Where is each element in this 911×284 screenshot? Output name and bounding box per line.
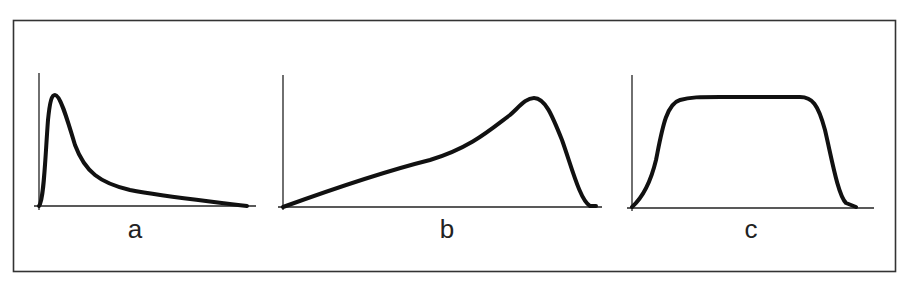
figure-canvas: a b c <box>0 0 911 284</box>
panel-a-curve <box>39 95 247 206</box>
panel-a: a <box>34 73 256 244</box>
panel-b-curve <box>283 98 596 207</box>
panel-c-curve <box>632 97 856 207</box>
figure-frame <box>14 21 896 272</box>
panel-c-label: c <box>745 214 758 244</box>
panel-b-label: b <box>440 214 454 244</box>
panel-a-label: a <box>128 214 143 244</box>
panel-b: b <box>278 75 602 244</box>
panel-c: c <box>627 75 874 244</box>
